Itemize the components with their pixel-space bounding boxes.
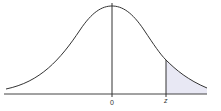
zero-label: 0 (110, 99, 114, 106)
normal-distribution-diagram: 0 z (0, 0, 221, 111)
z-label: z (164, 97, 168, 104)
bell-curve-graphic (0, 0, 221, 111)
